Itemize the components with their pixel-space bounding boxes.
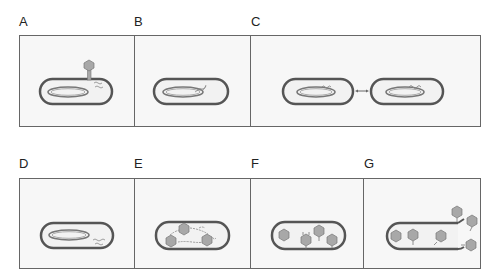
bacterium-a <box>40 79 112 104</box>
phage-icon <box>408 229 418 241</box>
lysed-bacterium-g <box>387 219 464 249</box>
diagram-illustrations <box>0 0 499 278</box>
bacterium-d <box>41 223 113 248</box>
bacterium-b <box>154 79 228 104</box>
phage-icon <box>314 225 324 237</box>
phage-icon <box>301 234 311 246</box>
bacterium-e <box>156 222 229 249</box>
bacterium-f <box>272 222 345 249</box>
capsid-icon <box>166 235 176 247</box>
phage-icon <box>452 206 462 218</box>
capsid-icon <box>202 234 212 246</box>
phage-icon <box>279 229 289 241</box>
phage-icon <box>467 215 477 227</box>
phage-icon <box>327 234 337 246</box>
phage-attached-icon <box>84 60 94 80</box>
phage-icon <box>391 230 401 242</box>
division-arrows-icon <box>355 90 369 93</box>
phage-icon <box>436 230 446 242</box>
phage-icon <box>466 239 476 251</box>
capsid-icon <box>179 223 189 235</box>
bacterium-c-left <box>283 79 353 104</box>
bacterium-c-right <box>371 79 443 104</box>
